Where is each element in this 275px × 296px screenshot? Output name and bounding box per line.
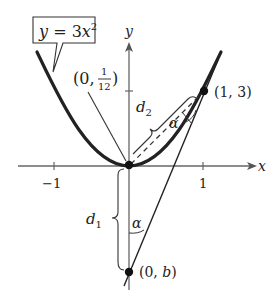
focus-label: (0, 1 12 ) — [73, 66, 118, 92]
svg-text:1: 1 — [101, 66, 107, 77]
d1-label: d1 — [86, 210, 102, 230]
tick-pos1-label: 1 — [199, 176, 207, 191]
point-tangent-label: (1, 3) — [214, 84, 252, 100]
parabola-reflection-diagram: x −1 1 y α α d1 d2 (0, 1 12 ) (1, 3) — [0, 0, 275, 296]
svg-text:): ) — [112, 69, 118, 88]
point-vertex — [125, 161, 133, 169]
svg-text:(0,: (0, — [73, 69, 95, 88]
y-axis-label: y — [124, 23, 134, 39]
x-axis-label: x — [258, 158, 266, 174]
alpha-bottom-label: α — [132, 215, 142, 231]
point-intercept — [125, 268, 133, 276]
focus-leader — [88, 92, 126, 161]
tick-neg1-label: −1 — [42, 176, 61, 191]
d1-brace — [112, 169, 124, 270]
svg-text:12: 12 — [98, 81, 111, 92]
point-tangent — [200, 87, 208, 95]
point-intercept-label: (0, b) — [139, 264, 177, 280]
d2-label: d2 — [136, 98, 152, 118]
alpha-top-label: α — [169, 115, 179, 131]
svg-text:y = 3x2: y = 3x2 — [38, 21, 97, 41]
